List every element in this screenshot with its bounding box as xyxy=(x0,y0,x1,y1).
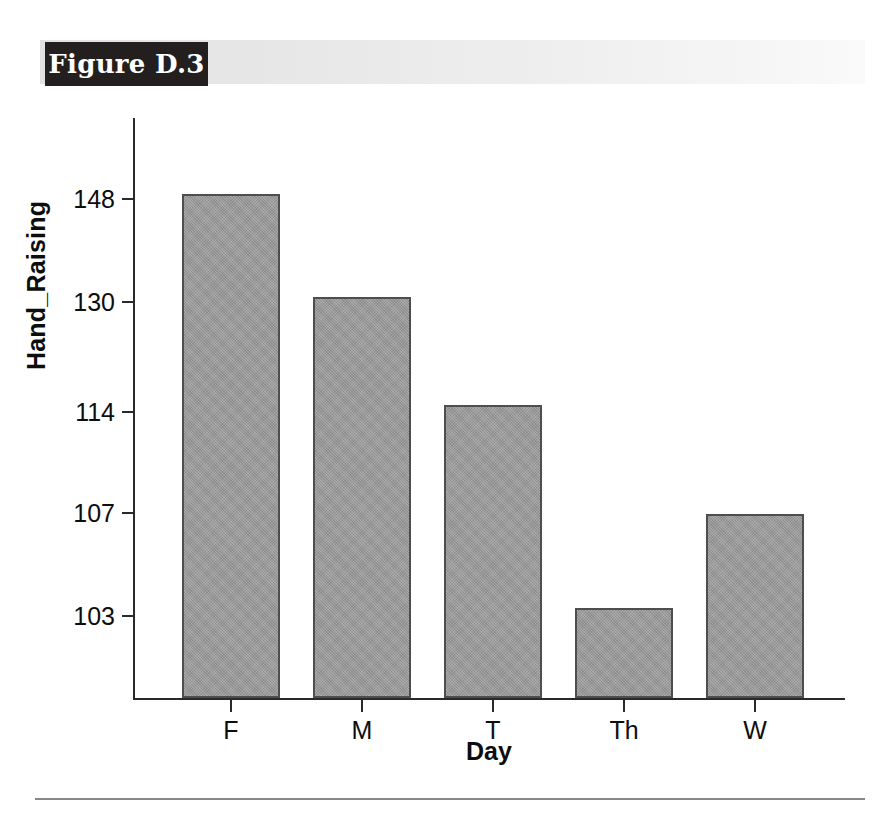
y-axis-line xyxy=(133,118,135,700)
plot-area: 148 130 114 107 103 F M T Th xyxy=(133,118,845,700)
bar-chart: Hand_Raising 148 130 114 107 103 F M xyxy=(0,100,895,780)
x-axis-title: Day xyxy=(133,737,845,766)
x-axis-tick: M xyxy=(361,700,363,712)
y-axis-tick: 148 xyxy=(122,198,133,200)
y-axis-tick-label: 130 xyxy=(73,288,115,317)
y-axis-tick: 107 xyxy=(122,512,133,514)
x-axis-line xyxy=(133,698,845,700)
x-axis-tick: Th xyxy=(623,700,625,712)
y-axis-tick: 103 xyxy=(122,615,133,617)
x-axis-tick: W xyxy=(754,700,756,712)
y-axis-title: Hand_Raising xyxy=(22,201,51,370)
y-axis-tick: 114 xyxy=(122,411,133,413)
figure-header: Figure D.3 xyxy=(40,38,865,86)
figure-label-box: Figure D.3 xyxy=(45,42,208,86)
footer-rule xyxy=(35,798,865,800)
bar-m[interactable] xyxy=(313,297,411,698)
x-axis-tick: F xyxy=(230,700,232,712)
bar-f[interactable] xyxy=(182,194,280,698)
y-axis-tick-label: 107 xyxy=(73,499,115,528)
x-axis-tick: T xyxy=(492,700,494,712)
figure-label: Figure D.3 xyxy=(48,51,204,77)
y-axis-tick-label: 148 xyxy=(73,185,115,214)
y-axis-tick: 130 xyxy=(122,301,133,303)
bar-t[interactable] xyxy=(444,405,542,698)
bar-th[interactable] xyxy=(575,608,673,698)
y-axis-tick-label: 103 xyxy=(73,602,115,631)
bar-w[interactable] xyxy=(706,514,804,698)
y-axis-tick-label: 114 xyxy=(75,398,115,427)
